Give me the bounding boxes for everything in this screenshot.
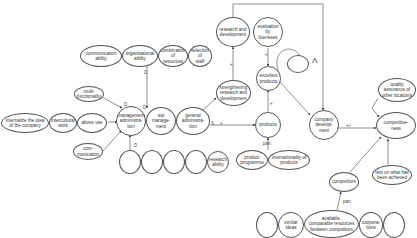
- edge-label-plus: +: [265, 52, 268, 57]
- node-research-ability: research ability: [207, 151, 229, 173]
- node-product-programme: product programme: [236, 150, 268, 170]
- node-management-administration: management administra- tion: [116, 106, 146, 136]
- node-quality-assurance: quality assurance of other locations: [378, 78, 416, 102]
- edge-label-s: S: [211, 121, 214, 126]
- node-communication-ability: communication ability: [80, 45, 122, 67]
- node-evaluation-by-licensees: evaluation by licensees: [253, 17, 283, 47]
- node-self-loop-circle: [287, 55, 309, 73]
- edge-label-d: D: [134, 143, 137, 148]
- edge-label-plus: +: [270, 101, 273, 106]
- edge-label-d: D: [143, 105, 146, 110]
- node-empty-circle: [185, 150, 207, 174]
- edge-label-part: part: [263, 141, 271, 146]
- node-available-resources: available, comparable resources between …: [304, 210, 359, 238]
- node-excellent-products: excellent products: [256, 66, 281, 91]
- edge-label-d: D: [144, 70, 147, 75]
- node-competitors: competitors: [329, 172, 359, 192]
- node-combination-of-resources: combination of resources: [158, 45, 188, 67]
- node-multi-functionality: multi- functionality: [74, 86, 104, 102]
- edge-label-plus-minus: +/-: [346, 123, 351, 128]
- causal-diagram: communication ability organisational abi…: [0, 0, 417, 238]
- node-intercultural-work: intercultural work: [49, 113, 77, 133]
- node-general-administration: general administra- tion: [176, 107, 210, 135]
- node-strengthening-rd: strengthening research and development: [216, 80, 251, 106]
- node-competitiveness: competitive- ness: [376, 112, 416, 139]
- node-similar-ideas: similar ideas: [278, 212, 304, 238]
- node-empty-circle: [119, 150, 141, 174]
- node-cooperations: coopera- tions: [359, 212, 383, 238]
- node-organisational-ability: organisational ability: [122, 45, 158, 67]
- loop-symbol: Λ: [312, 58, 317, 63]
- node-products: products: [255, 112, 281, 138]
- node-empty-circle: [383, 212, 405, 238]
- edge-label-plus: +: [220, 121, 223, 126]
- node-internalize: internalize the idea of the company: [1, 113, 49, 133]
- edge-label-part: part: [343, 199, 351, 204]
- node-empty-circle: [256, 212, 278, 238]
- node-research-and-development: research and development: [216, 17, 250, 47]
- node-top-management: top manage- ment: [146, 107, 176, 135]
- node-above-use: above use: [77, 113, 107, 133]
- edge-label-d: D: [124, 102, 127, 107]
- node-empty-circle: [163, 150, 185, 174]
- node-internationality-of-products: internationality of products: [268, 150, 310, 170]
- node-empty-circle: [141, 150, 163, 174]
- node-company-development: company develop- ment: [309, 110, 339, 140]
- edge-label-plus: +: [230, 62, 233, 67]
- node-selection-of-staff: selection of staff: [188, 45, 212, 67]
- node-rest-on-achieved: rest on what has been achieved: [372, 165, 412, 185]
- node-communication: com- munication: [73, 143, 103, 160]
